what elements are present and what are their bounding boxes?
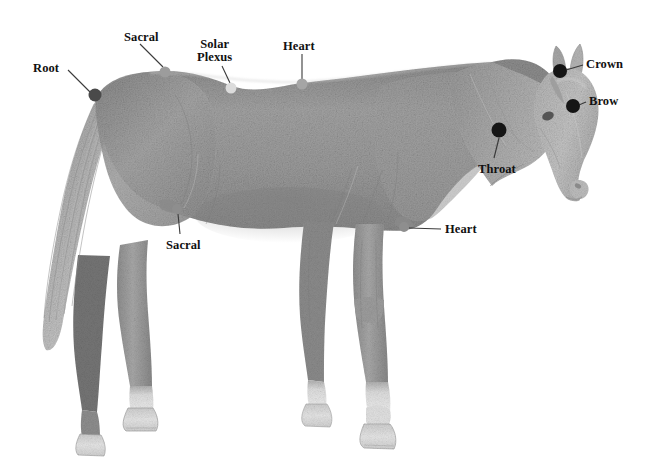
label-line: Root	[33, 62, 59, 75]
label-line: Throat	[478, 163, 516, 176]
label-heart-upper: Heart	[283, 40, 315, 53]
label-solar-plexus: SolarPlexus	[197, 38, 232, 64]
label-line: Sacral	[124, 31, 159, 44]
horse-chakra-diagram: RootSacralSolarPlexusHeartCrownBrowThroa…	[0, 0, 655, 471]
label-line: Brow	[589, 95, 618, 108]
label-line: Crown	[586, 58, 623, 71]
label-throat: Throat	[478, 163, 516, 176]
label-brow: Brow	[589, 95, 618, 108]
label-line: Heart	[445, 223, 477, 236]
label-crown: Crown	[586, 58, 623, 71]
label-line: Plexus	[197, 51, 232, 64]
label-line: Heart	[283, 40, 315, 53]
label-root: Root	[33, 62, 59, 75]
label-sacral-upper: Sacral	[124, 31, 159, 44]
label-sacral-lower: Sacral	[166, 239, 201, 252]
labels-layer: RootSacralSolarPlexusHeartCrownBrowThroa…	[0, 0, 655, 471]
label-line: Sacral	[166, 239, 201, 252]
label-heart-lower: Heart	[445, 223, 477, 236]
